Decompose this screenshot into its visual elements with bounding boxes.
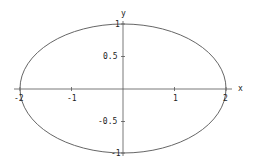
x-tick-label: -1: [67, 94, 77, 103]
ellipse-plot: y x -2 -1 1 2 1 0.5 -0.5 -1: [0, 0, 259, 164]
x-tick-label: 1: [173, 94, 178, 103]
y-axis-label: y: [121, 9, 126, 18]
y-axis: [121, 21, 125, 156]
y-tick-label: -0.5: [98, 117, 117, 126]
x-tick-label: 2: [223, 94, 228, 103]
x-axis-label: x: [238, 84, 243, 93]
y-tick-label: 1: [115, 20, 120, 29]
y-tick-label: 0.5: [103, 52, 118, 61]
x-tick-label: -2: [14, 94, 24, 103]
y-tick-label: -1: [111, 149, 121, 158]
